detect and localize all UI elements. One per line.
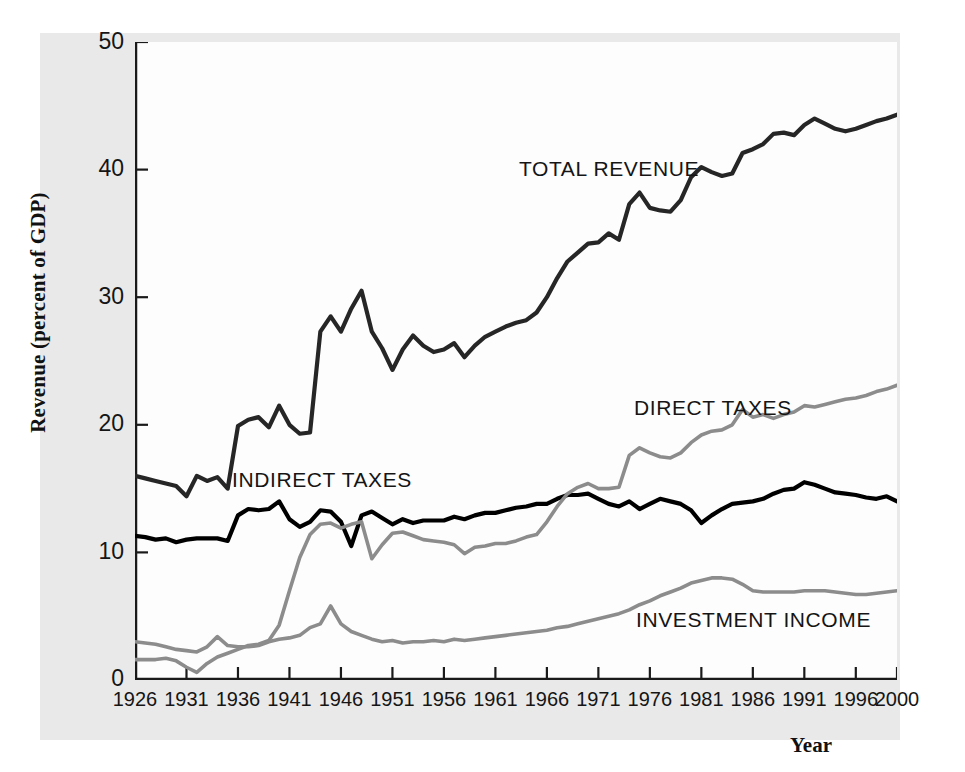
x-tick-label-1986: 1986	[727, 688, 779, 711]
y-tick-label-30: 30	[78, 283, 124, 310]
x-tick-label-1976: 1976	[624, 688, 676, 711]
y-tick-label-20: 20	[78, 410, 124, 437]
x-tick-label-1926: 1926	[109, 688, 161, 711]
annotation-investment-income: INVESTMENT INCOME	[636, 608, 871, 632]
x-tick-label-2000: 2000	[871, 688, 923, 711]
figure-root: 50 40 30 20 10 0 Revenue (percent of GDP…	[0, 0, 965, 772]
x-tick-label-1961: 1961	[469, 688, 521, 711]
y-tick-label-50: 50	[78, 28, 124, 55]
series-lines	[135, 115, 897, 673]
axis-lines	[135, 42, 897, 680]
x-tick-label-1981: 1981	[675, 688, 727, 711]
plot-canvas	[135, 42, 897, 680]
x-axis-title: Year	[790, 733, 832, 758]
annotation-direct-taxes: DIRECT TAXES	[634, 396, 792, 420]
x-tick-label-1936: 1936	[212, 688, 264, 711]
annotation-total-revenue: TOTAL REVENUE	[519, 157, 699, 181]
y-tick-label-10: 10	[78, 538, 124, 565]
y-axis-title: Revenue (percent of GDP)	[26, 53, 51, 573]
x-tick-label-1971: 1971	[572, 688, 624, 711]
series-line-total-revenue	[135, 115, 897, 497]
chart-svg	[135, 42, 897, 680]
x-tick-label-1991: 1991	[778, 688, 830, 711]
x-tick-label-1951: 1951	[366, 688, 418, 711]
x-tick-label-1941: 1941	[263, 688, 315, 711]
y-tick-label-40: 40	[78, 155, 124, 182]
x-tick-label-1931: 1931	[160, 688, 212, 711]
x-tick-label-1946: 1946	[315, 688, 367, 711]
annotation-indirect-taxes: INDIRECT TAXES	[232, 468, 412, 492]
x-tick-label-1966: 1966	[521, 688, 573, 711]
tick-marks	[135, 42, 897, 680]
x-tick-label-1956: 1956	[418, 688, 470, 711]
